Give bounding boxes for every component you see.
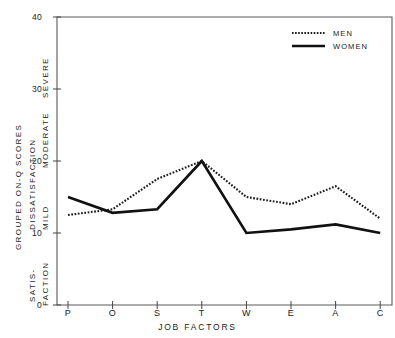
y-tick-label: 40: [18, 12, 42, 22]
series-line-men: [68, 161, 380, 219]
y-tick-label: 10: [18, 228, 42, 238]
data-series-layer: [68, 161, 380, 233]
series-line-women: [68, 161, 380, 233]
legend-swatches: [291, 27, 331, 61]
x-tick-label: O: [103, 308, 123, 318]
x-tick-label: S: [147, 308, 167, 318]
chart-figure: GROUPED ON-Q SCORES DISSATISFACTION SATI…: [0, 0, 395, 338]
legend-label-men: MEN: [333, 29, 353, 38]
legend-label-women: WOMEN: [333, 42, 368, 51]
x-tick-label: W: [236, 308, 256, 318]
y-tick-label: 30: [18, 84, 42, 94]
x-tick-label: P: [58, 308, 78, 318]
plot-frame: [57, 17, 392, 305]
y-tick-label: 0: [18, 300, 42, 310]
y-tick-label: 20: [18, 156, 42, 166]
x-tick-label: C: [370, 308, 390, 318]
x-tick-label: A: [326, 308, 346, 318]
x-tick-label: T: [192, 308, 212, 318]
x-tick-label: E: [281, 308, 301, 318]
x-axis-title: JOB FACTORS: [0, 322, 395, 332]
